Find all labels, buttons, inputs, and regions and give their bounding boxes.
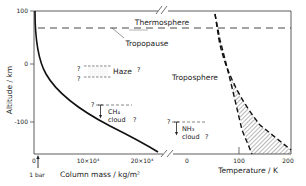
atmosphere-diagram: 100 0 -100 Altitude / km 0 10×10⁴ 20×10⁴… — [0, 0, 306, 186]
ch4-label: CH₄ — [108, 108, 120, 116]
temperature-profile — [215, 14, 291, 154]
ytick-100: 100 — [17, 7, 29, 14]
ch4-cloud-region: ? CH₄ cloud ? — [91, 101, 136, 124]
one-bar-label: 1 bar — [29, 171, 45, 178]
svg-text:?: ? — [167, 118, 170, 126]
nh3-label: NH₃ — [182, 125, 195, 133]
haze-region: ? ? Haze ? — [77, 65, 140, 83]
haze-label: Haze — [113, 67, 132, 76]
svg-text:?: ? — [91, 101, 94, 109]
tropopause-leader — [112, 28, 124, 38]
xtick-right-200: 200 — [282, 157, 294, 164]
y-axis-label: Altitude / km — [5, 66, 14, 114]
tropopause-label: Tropopause — [125, 39, 169, 48]
troposphere-label: Troposphere — [171, 73, 218, 82]
nh3-cloud-region: ? NH₃ cloud ? — [167, 118, 208, 141]
svg-text:?: ? — [205, 133, 208, 141]
nh3-cloud-label: cloud — [182, 133, 200, 141]
svg-text:?: ? — [137, 66, 140, 74]
x-axis-label-right: Temperature / K — [217, 166, 279, 175]
xtick-left-10e4: 10×10⁴ — [77, 157, 100, 164]
axis-break-bottom — [161, 150, 167, 157]
thermosphere-label: Thermosphere — [134, 18, 190, 27]
ytick-0: 0 — [24, 60, 28, 67]
ch4-cloud-label: cloud — [108, 116, 126, 124]
axis-break-top — [156, 6, 162, 14]
xtick-left-20e4: 20×10⁴ — [131, 157, 154, 164]
ytick-minus-100: -100 — [14, 118, 28, 125]
column-mass-curve — [35, 11, 158, 152]
x-axis-label-left: Column mass / kg/m² — [60, 170, 140, 179]
xtick-right-100: 100 — [233, 157, 245, 164]
svg-text:?: ? — [77, 75, 80, 83]
svg-text:?: ? — [77, 65, 80, 73]
xtick-left-0: 0 — [32, 157, 36, 164]
xtick-right-0: 0 — [185, 157, 189, 164]
one-bar-arrow-icon — [36, 155, 39, 168]
svg-text:?: ? — [133, 116, 136, 124]
